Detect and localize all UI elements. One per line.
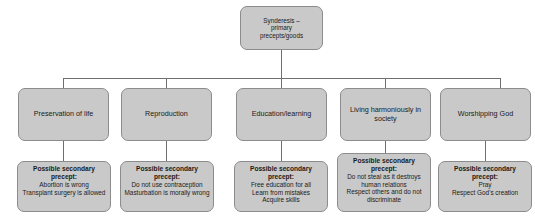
- leaf-item-1-2: Transplant surgery is allowed: [20, 189, 108, 197]
- connector-branch-leaf-5: [485, 141, 486, 161]
- leaf-item-3-3: Acquire skills: [237, 196, 325, 204]
- leaf-item-2-1: Do not use contraception: [123, 181, 211, 189]
- node-worshipping-god-label: Worshipping God: [441, 110, 530, 118]
- leaf-heading-4: Possible secondary precept:: [340, 157, 428, 173]
- leaf-living-harmoniously[interactable]: Possible secondary precept: Do not steal…: [337, 153, 431, 212]
- connector-branch-leaf-3: [281, 141, 282, 161]
- leaf-item-5-1: Pray: [441, 181, 529, 189]
- leaf-heading-5: Possible secondary precept:: [441, 165, 529, 181]
- leaf-education-learning[interactable]: Possible secondary precept: Free educati…: [234, 161, 328, 212]
- connector-branch-leaf-1: [63, 141, 64, 161]
- leaf-item-4-1: Do not steal as it destroys human relati…: [340, 173, 428, 188]
- leaf-heading-3: Possible secondary precept:: [237, 165, 325, 181]
- node-synderesis-line-3: precepts/goods: [241, 32, 322, 39]
- node-worshipping-god[interactable]: Worshipping God: [440, 88, 531, 141]
- node-preservation-of-life[interactable]: Preservation of life: [18, 88, 109, 141]
- node-reproduction-label: Reproduction: [122, 110, 211, 118]
- leaf-item-3-2: Learn from mistakes: [237, 189, 325, 197]
- node-preservation-of-life-label: Preservation of life: [19, 110, 108, 118]
- node-synderesis-line-1: Synderesis –: [241, 17, 322, 24]
- connector-drop-3: [281, 70, 282, 88]
- connector-drop-1: [63, 78, 64, 88]
- node-education-learning-label: Education/learning: [237, 110, 326, 118]
- leaf-item-1-1: Abortion is wrong: [20, 181, 108, 189]
- leaf-heading-1: Possible secondary precept:: [20, 165, 108, 181]
- leaf-item-3-1: Free education for all: [237, 181, 325, 189]
- leaf-reproduction[interactable]: Possible secondary precept: Do not use c…: [120, 161, 214, 212]
- diagram-canvas: Synderesis – primary precepts/goods Pres…: [0, 0, 535, 224]
- node-living-harmoniously[interactable]: Living harmoniously in society: [340, 88, 431, 141]
- node-reproduction[interactable]: Reproduction: [121, 88, 212, 141]
- leaf-item-2-2: Masturbation is morally wrong: [123, 189, 211, 197]
- leaf-item-4-2: Respect others and do not discriminate: [340, 188, 428, 203]
- leaf-preservation-of-life[interactable]: Possible secondary precept: Abortion is …: [17, 161, 111, 212]
- node-synderesis-line-2: primary: [241, 24, 322, 31]
- leaf-heading-2: Possible secondary precept:: [123, 165, 211, 181]
- node-education-learning[interactable]: Education/learning: [236, 88, 327, 141]
- leaf-item-5-2: Respect God's creation: [441, 189, 529, 197]
- node-synderesis[interactable]: Synderesis – primary precepts/goods: [240, 6, 323, 50]
- node-living-harmoniously-label: Living harmoniously in society: [349, 106, 422, 123]
- connector-drop-4: [385, 78, 386, 88]
- connector-branch-leaf-2: [166, 141, 167, 161]
- connector-branch-leaf-4: [385, 141, 386, 153]
- leaf-worshipping-god[interactable]: Possible secondary precept: Pray Respect…: [438, 161, 532, 212]
- connector-drop-5: [500, 78, 501, 88]
- connector-drop-2: [166, 78, 167, 88]
